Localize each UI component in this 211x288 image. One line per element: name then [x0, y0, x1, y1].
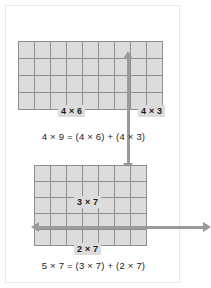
- part-label-bottom: 2 × 7: [74, 243, 101, 255]
- array-cell: [51, 42, 66, 58]
- array-cell: [19, 42, 34, 58]
- array-cell: [35, 182, 50, 197]
- array-cell: [99, 59, 114, 75]
- array-cell: [115, 230, 130, 245]
- array-cell: [35, 230, 50, 245]
- array-cell: [67, 182, 82, 197]
- array-cell: [35, 93, 50, 109]
- figure-array-model-4x9: 4 × 6 4 × 3 4 × 9 = (4 × 6) + (4 × 3): [6, 14, 181, 149]
- array-cell: [67, 166, 82, 181]
- array-cell: [35, 214, 50, 229]
- array-cell: [35, 166, 50, 181]
- array-cell: [83, 182, 98, 197]
- array-cell: [83, 42, 98, 58]
- array-cell: [131, 230, 146, 245]
- array-cell: [131, 166, 146, 181]
- array-cell: [67, 76, 82, 92]
- array-cell: [67, 214, 82, 229]
- array-cell: [147, 76, 162, 92]
- part-label-left: 4 × 6: [58, 105, 85, 117]
- array-cell: [35, 76, 50, 92]
- page-background: 4 × 6 4 × 3 4 × 9 = (4 × 6) + (4 × 3) 3 …: [0, 0, 185, 288]
- array-cell: [35, 198, 50, 213]
- array-cell: [51, 198, 66, 213]
- array-cell: [51, 59, 66, 75]
- array-cell: [115, 182, 130, 197]
- array-cell: [51, 182, 66, 197]
- array-cell: [147, 42, 162, 58]
- array-cell: [51, 166, 66, 181]
- array-cell: [131, 198, 146, 213]
- part-label-top: 3 × 7: [74, 196, 101, 208]
- array-grid: [18, 41, 163, 110]
- array-cell: [83, 214, 98, 229]
- part-label-right: 4 × 3: [138, 105, 165, 117]
- array-cell: [35, 59, 50, 75]
- grid-wrapper: 4 × 6 4 × 3: [18, 41, 163, 110]
- array-cell: [19, 93, 34, 109]
- array-cell: [99, 76, 114, 92]
- figure-caption: 4 × 9 = (4 × 6) + (4 × 3): [6, 131, 181, 142]
- array-cell: [19, 76, 34, 92]
- array-cell: [83, 76, 98, 92]
- array-cell: [99, 166, 114, 181]
- array-cell: [131, 59, 146, 75]
- array-cell: [147, 59, 162, 75]
- array-cell: [115, 42, 130, 58]
- array-cell: [83, 59, 98, 75]
- array-cell: [115, 93, 130, 109]
- array-cell: [115, 166, 130, 181]
- array-cell: [115, 214, 130, 229]
- array-cell: [115, 198, 130, 213]
- grid-wrapper: 3 × 7 2 × 7: [34, 165, 147, 246]
- array-cell: [67, 59, 82, 75]
- array-cell: [83, 166, 98, 181]
- array-cell: [99, 214, 114, 229]
- array-cell: [51, 214, 66, 229]
- array-cell: [99, 182, 114, 197]
- array-cell: [51, 230, 66, 245]
- array-cell: [131, 214, 146, 229]
- figure-card: 4 × 6 4 × 3 4 × 9 = (4 × 6) + (4 × 3) 3 …: [5, 5, 180, 283]
- array-cell: [99, 93, 114, 109]
- array-cell: [51, 76, 66, 92]
- array-cell: [115, 59, 130, 75]
- array-cell: [99, 42, 114, 58]
- figure-caption: 5 × 7 = (3 × 7) + (2 × 7): [6, 260, 181, 271]
- array-cell: [131, 42, 146, 58]
- array-cell: [19, 59, 34, 75]
- array-cell: [67, 42, 82, 58]
- figure-array-model-5x7: 3 × 7 2 × 7 5 × 7 = (3 × 7) + (2 × 7): [6, 151, 181, 279]
- array-cell: [115, 76, 130, 92]
- array-cell: [35, 42, 50, 58]
- array-cell: [131, 182, 146, 197]
- array-cell: [131, 76, 146, 92]
